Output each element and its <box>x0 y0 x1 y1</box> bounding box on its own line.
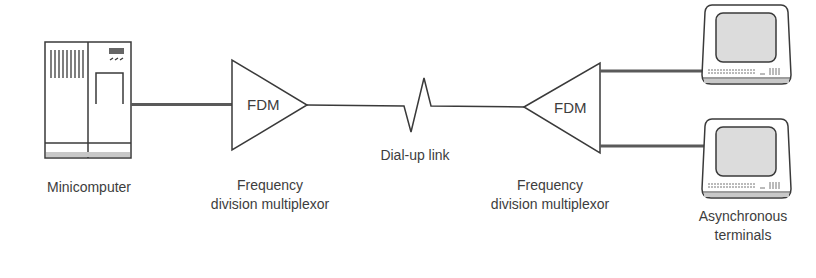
terminals-caption-line1: Asynchronous <box>680 207 806 226</box>
minicomputer-icon <box>45 42 131 158</box>
fdm-right-triangle: FDM <box>524 63 600 153</box>
terminal-1-icon <box>702 5 791 84</box>
fdm-right-caption: Frequency division multiplexor <box>465 176 635 214</box>
terminal-2-icon <box>702 119 791 198</box>
minicomputer-label: Minicomputer <box>28 178 150 197</box>
fdm-right-caption-line2: division multiplexor <box>465 195 635 214</box>
terminals-caption: Asynchronous terminals <box>680 207 806 245</box>
fdm-left-triangle: FDM <box>232 60 307 150</box>
fdm-left-box-label: FDM <box>247 96 280 113</box>
dial-up-link-label: Dial-up link <box>360 146 470 165</box>
fdm-left-caption-line2: division multiplexor <box>190 195 350 214</box>
fdm-right-box-label: FDM <box>554 99 587 116</box>
fdm-left-caption: Frequency division multiplexor <box>190 176 350 214</box>
terminals-caption-line2: terminals <box>680 226 806 245</box>
fdm-right-caption-line1: Frequency <box>465 176 635 195</box>
dial-up-link-line <box>307 78 524 132</box>
fdm-left-caption-line1: Frequency <box>190 176 350 195</box>
